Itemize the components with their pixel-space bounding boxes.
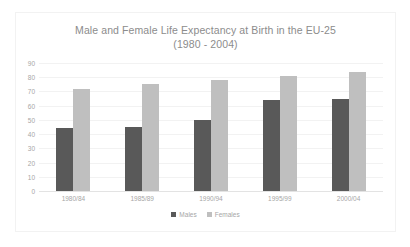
legend-label: Males	[179, 211, 196, 218]
x-axis-tick-label: 1985/89	[108, 195, 177, 202]
chart-legend: MalesFemales	[16, 211, 395, 218]
bar-males-1990-94[interactable]	[194, 120, 211, 191]
x-axis-tick-label: 1980/84	[39, 195, 108, 202]
y-axis-tick-label: 40	[28, 131, 35, 138]
y-axis-tick-label: 60	[28, 102, 35, 109]
bar-group	[245, 63, 314, 191]
bar-group	[177, 63, 246, 191]
x-axis-tick-labels: 1980/841985/891990/941995/992000/04	[39, 195, 383, 202]
legend-item-males[interactable]: Males	[171, 211, 196, 218]
chart-title-line-1: Male and Female Life Expectancy at Birth…	[75, 24, 336, 36]
y-axis-tick-label: 90	[28, 60, 35, 67]
y-axis-tick-label: 0	[31, 188, 35, 195]
y-axis-tick-label: 80	[28, 74, 35, 81]
bar-group	[108, 63, 177, 191]
bar-females-1980-84[interactable]	[73, 89, 90, 191]
gridline	[39, 191, 383, 192]
y-axis-tick-label: 20	[28, 159, 35, 166]
chart-subtitle: (1980 - 2004)	[16, 37, 395, 51]
bar-females-1990-94[interactable]	[211, 80, 228, 191]
bar-males-1980-84[interactable]	[56, 128, 73, 191]
x-axis-tick-label: 2000/04	[314, 195, 383, 202]
legend-item-females[interactable]: Females	[207, 211, 240, 218]
bar-females-1985-89[interactable]	[142, 84, 159, 191]
y-axis-tick-label: 30	[28, 145, 35, 152]
y-axis-tick-label: 70	[28, 88, 35, 95]
y-axis-tick-label: 10	[28, 173, 35, 180]
square-marker	[171, 212, 176, 217]
chart-container: Male and Female Life Expectancy at Birth…	[15, 12, 396, 232]
y-axis-tick-label: 50	[28, 116, 35, 123]
plot-area: 9080706050403020100	[39, 63, 383, 191]
square-marker	[207, 212, 212, 217]
bar-males-1985-89[interactable]	[125, 127, 142, 191]
bar-males-2000-04[interactable]	[332, 99, 349, 191]
legend-label: Females	[215, 211, 240, 218]
bar-females-2000-04[interactable]	[349, 72, 366, 191]
bar-males-1995-99[interactable]	[263, 100, 280, 191]
bar-females-1995-99[interactable]	[280, 76, 297, 191]
x-axis-tick-label: 1995/99	[245, 195, 314, 202]
bar-group	[314, 63, 383, 191]
bars-layer	[39, 63, 383, 191]
chart-title: Male and Female Life Expectancy at Birth…	[16, 23, 395, 51]
x-axis-tick-label: 1990/94	[177, 195, 246, 202]
bar-group	[39, 63, 108, 191]
